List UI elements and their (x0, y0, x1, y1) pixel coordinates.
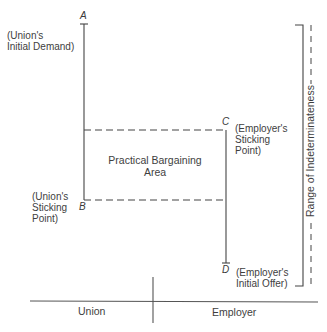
point-b-letter: B (79, 201, 86, 212)
point-b-label: (Union's Sticking Point) (32, 191, 68, 224)
point-a-label: (Union's Initial Demand) (7, 30, 74, 52)
point-c-label: (Employer's Sticking Point) (235, 123, 287, 156)
axis-label-union: Union (78, 305, 105, 317)
horizontal-axis (30, 301, 318, 302)
practical-bargaining-area-label: Practical Bargaining Area (100, 154, 210, 178)
point-a-letter: A (80, 10, 87, 21)
point-d-letter: D (222, 264, 229, 275)
point-d-label: (Employer's Initial Offer) (236, 267, 288, 289)
axis-label-employer: Employer (212, 306, 256, 318)
point-c-letter: C (222, 116, 229, 127)
range-of-indeterminateness-label: Range of Indeterminateness (304, 84, 316, 218)
range-bracket (295, 25, 303, 286)
